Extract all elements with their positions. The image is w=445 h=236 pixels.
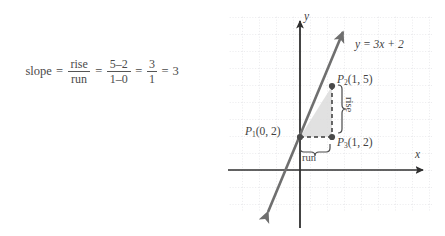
fraction-numerator-rise: rise (67, 58, 90, 71)
equals-sign-3: = (135, 64, 142, 79)
slope-equation: slope = rise run = 5–2 1–0 = 3 1 = 3 (24, 58, 180, 86)
point-label-p2: P2(1, 5) (337, 73, 373, 87)
point-p2 (329, 83, 335, 89)
point-label-p2-name: P (337, 73, 344, 85)
slope-formula-panel: slope = rise run = 5–2 1–0 = 3 1 = 3 (0, 0, 225, 236)
fraction-numerator-difference: 5–2 (107, 58, 131, 71)
graph-canvas (225, 0, 445, 236)
point-label-p3-name: P (337, 136, 344, 148)
point-label-p1: P1(0, 2) (245, 125, 281, 139)
x-axis-label: x (415, 148, 420, 160)
point-label-p2-coords: (1, 5) (348, 73, 373, 85)
fraction-rise-over-run: rise run (67, 58, 90, 86)
equals-sign-2: = (95, 64, 102, 79)
fraction-denominator-difference: 1–0 (107, 71, 131, 85)
equals-sign-1: = (56, 64, 63, 79)
point-label-p1-coords: (0, 2) (256, 125, 281, 137)
fraction-three-over-one: 3 1 (147, 58, 157, 86)
point-label-p3-coords: (1, 2) (348, 136, 373, 148)
fraction-denominator-run: run (68, 71, 90, 85)
y-axis-label: y (304, 10, 309, 22)
slope-result: 3 (172, 64, 178, 79)
point-label-p3: P3(1, 2) (337, 136, 373, 150)
point-p3 (329, 134, 335, 140)
rise-annotation-label: rise (344, 97, 355, 112)
point-p1 (297, 134, 303, 140)
fraction-denominator-one: 1 (147, 71, 157, 85)
coordinate-graph-panel: y x y = 3x + 2 P2(1, 5) P1(0, 2) P3(1, 2… (225, 0, 445, 236)
slope-word: slope (26, 64, 52, 79)
run-annotation-label: run (302, 152, 316, 163)
fraction-differences: 5–2 1–0 (107, 58, 131, 86)
equation-label: y = 3x + 2 (355, 38, 404, 50)
point-label-p1-name: P (245, 125, 252, 137)
equals-sign-4: = (161, 64, 168, 79)
fraction-numerator-three: 3 (147, 58, 157, 71)
